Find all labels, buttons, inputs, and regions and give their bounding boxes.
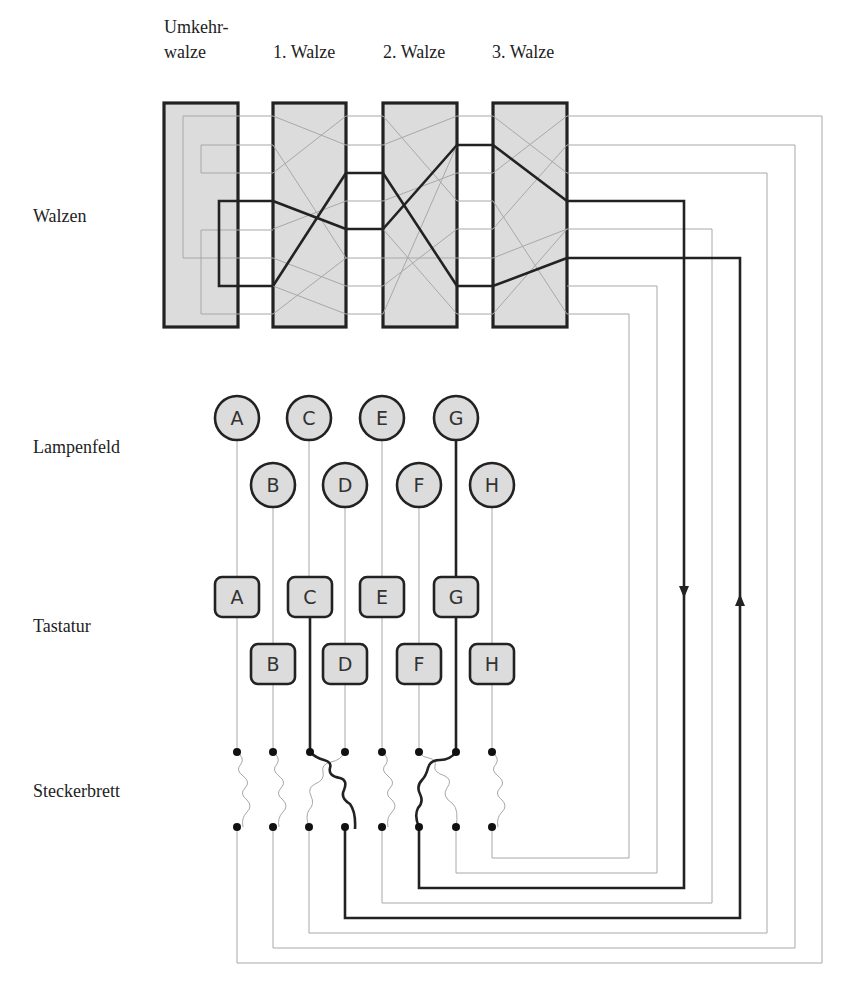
svg-text:E: E (376, 407, 388, 429)
svg-text:G: G (449, 407, 464, 429)
svg-text:H: H (485, 474, 499, 496)
key-E[interactable]: E (360, 577, 404, 617)
svg-text:F: F (414, 653, 425, 675)
svg-text:B: B (266, 653, 279, 675)
rotor-boxes (164, 103, 567, 327)
rotor2-label: 2. Walze (383, 42, 445, 62)
lamp-B: B (251, 463, 295, 507)
svg-text:D: D (338, 474, 353, 496)
key-B[interactable]: B (251, 644, 295, 684)
key-D[interactable]: D (323, 644, 367, 684)
svg-text:B: B (266, 474, 279, 496)
lamp-H: H (470, 463, 514, 507)
key-C[interactable]: C (288, 577, 332, 617)
reflector-label-line2: walze (164, 42, 206, 62)
svg-text:F: F (414, 474, 425, 496)
svg-text:D: D (338, 653, 353, 675)
lamp-C: C (287, 396, 331, 440)
key-G[interactable]: G (434, 577, 478, 617)
plug-cable-C-D (310, 752, 355, 829)
row-label-lampenfeld: Lampenfeld (33, 437, 120, 457)
svg-text:A: A (231, 586, 244, 608)
rotor3-label: 3. Walze (492, 42, 554, 62)
svg-text:G: G (449, 586, 464, 608)
plugboard-cables (237, 752, 505, 829)
arrow-down-icon (679, 586, 689, 598)
key-A[interactable]: A (215, 577, 259, 617)
rotor1-label: 1. Walze (273, 42, 335, 62)
reflector-label-line1: Umkehr- (164, 17, 229, 37)
plug-cable-G-F (416, 752, 456, 827)
row-label-walzen: Walzen (33, 206, 87, 226)
svg-text:H: H (485, 653, 499, 675)
rotor3-box (493, 103, 567, 327)
key-H[interactable]: H (470, 644, 514, 684)
row-label-tastatur: Tastatur (33, 616, 91, 636)
lamp-A: A (215, 396, 259, 440)
lamp-F: F (397, 463, 441, 507)
svg-text:E: E (376, 586, 388, 608)
lampenfeld: A B C D E F G H (215, 396, 514, 507)
row-label-steckerbrett: Steckerbrett (33, 781, 120, 801)
svg-text:A: A (231, 407, 244, 429)
lamp-D: D (323, 463, 367, 507)
arrow-up-icon (735, 594, 745, 606)
key-F[interactable]: F (397, 644, 441, 684)
tastatur: A B C D E F G H (215, 577, 514, 684)
lamp-E: E (360, 396, 404, 440)
enigma-diagram: Umkehr- walze 1. Walze 2. Walze 3. Walze… (0, 0, 852, 991)
svg-text:C: C (303, 586, 316, 608)
lamp-G: G (434, 396, 478, 440)
svg-text:C: C (302, 407, 315, 429)
